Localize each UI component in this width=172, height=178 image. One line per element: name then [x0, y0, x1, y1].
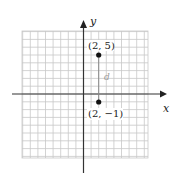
- y-axis-arrow-icon: [80, 20, 87, 28]
- point-2-5: [96, 52, 101, 57]
- x-axis-arrow-icon: [160, 91, 167, 98]
- point-label-2-5: (2, 5): [88, 40, 115, 51]
- point-2-neg1: [96, 99, 101, 104]
- point-label-2-neg1: (2, −1): [88, 108, 123, 119]
- y-axis-label: y: [89, 15, 97, 28]
- x-axis-label: x: [163, 102, 170, 115]
- distance-label: d: [104, 72, 110, 82]
- coordinate-plane-diagram: x y d (2, 5) (2, −1): [0, 0, 172, 178]
